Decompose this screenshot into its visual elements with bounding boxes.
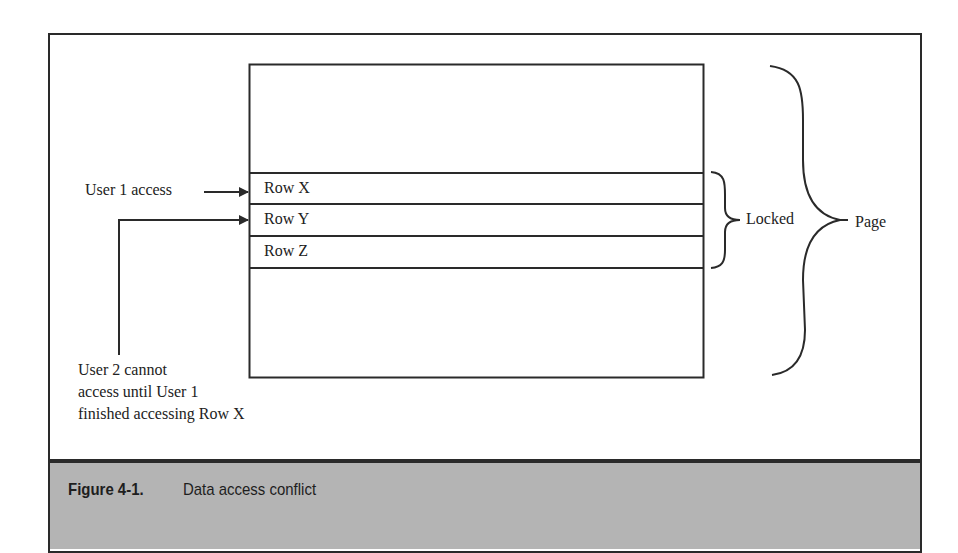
- caption-band: [48, 459, 922, 549]
- user2-note-line-1: User 2 cannot: [78, 359, 245, 381]
- page-rectangle: [250, 65, 704, 378]
- figure-title: Data access conflict: [183, 480, 316, 500]
- figure-caption: Figure 4-1.Data access conflict: [68, 480, 334, 500]
- row-y-label: Row Y: [264, 208, 309, 230]
- user2-note-line-2: access until User 1: [78, 381, 245, 403]
- page-label: Page: [855, 211, 886, 233]
- row-x-label: Row X: [264, 177, 310, 199]
- row-z-label: Row Z: [264, 240, 308, 262]
- locked-label: Locked: [746, 208, 794, 230]
- locked-brace: [711, 172, 740, 268]
- user2-note-line-3: finished accessing Row X: [78, 403, 245, 425]
- user1-access-label: User 1 access: [85, 179, 172, 201]
- figure-number: Figure 4-1.: [68, 480, 169, 500]
- user2-connector: [119, 220, 248, 355]
- user2-note: User 2 cannot access until User 1 finish…: [78, 359, 245, 425]
